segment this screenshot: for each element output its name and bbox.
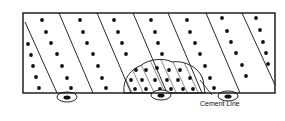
osteocyte-dot <box>191 87 195 91</box>
osteocyte-dot <box>69 86 73 90</box>
osteocyte-dot <box>78 18 82 22</box>
osteocyte-dot <box>167 68 171 72</box>
osteocyte-dot <box>193 41 197 45</box>
osteocyte-dot <box>178 68 182 72</box>
osteocyte-dot <box>181 87 185 91</box>
osteocyte-dot <box>100 76 104 80</box>
osteocyte-dot <box>169 87 173 91</box>
osteocyte-dot <box>240 63 244 67</box>
osteocyte-dot <box>134 68 138 72</box>
osteocyte-dot <box>55 52 59 56</box>
osteocyte-dot <box>261 40 265 44</box>
osteocyte-dot <box>91 52 95 56</box>
osteocyte-dot <box>120 41 124 45</box>
osteocyte-dot <box>229 40 233 44</box>
osteocyte-dot <box>144 68 148 72</box>
osteocyte-dot <box>44 30 48 34</box>
osteocyte-dot <box>31 64 35 68</box>
osteocyte-dot <box>258 28 262 32</box>
osteocyte-dot <box>160 52 164 56</box>
osteocyte-dot <box>140 78 144 82</box>
osteocyte-dot <box>155 66 159 70</box>
osteocyte-dot <box>112 18 116 22</box>
osteocyte-dot <box>153 30 157 34</box>
osteocyte-dot <box>49 41 53 45</box>
osteocyte-dot <box>65 76 69 80</box>
osteocyte-dot <box>40 18 44 22</box>
osteocyte-dot <box>37 86 41 90</box>
osteocyte-dot <box>104 86 108 90</box>
osteocyte-dot <box>85 41 89 45</box>
bone-remodeling-diagram <box>0 0 285 121</box>
osteocyte-dot <box>149 18 153 22</box>
osteocyte-dot <box>203 64 207 68</box>
osteocyte-dot <box>176 78 180 82</box>
osteocyte-dot <box>264 51 268 55</box>
osteocyte-dot <box>81 30 85 34</box>
osteoclast-blob <box>158 94 165 98</box>
osteocyte-dot <box>234 51 238 55</box>
osteocyte-dot <box>133 87 137 91</box>
lamella-line <box>242 13 275 85</box>
osteocyte-dot <box>225 29 229 33</box>
osteocyte-dot <box>266 62 270 66</box>
osteocyte-dot <box>244 74 248 78</box>
osteocyte-dot <box>124 52 128 56</box>
osteoclast-blob <box>225 95 232 99</box>
osteocyte-dot <box>34 75 38 79</box>
osteocyte-dot <box>208 76 212 80</box>
osteocyte-dot <box>60 64 64 68</box>
osteocyte-dot <box>254 16 258 20</box>
osteocyte-dot <box>198 52 202 56</box>
cement-line-label: Cement Line <box>200 100 240 107</box>
osteocyte-dot <box>188 30 192 34</box>
osteocyte-dot <box>212 86 216 90</box>
osteocyte-dot <box>153 78 157 82</box>
osteocyte-dot <box>116 30 120 34</box>
osteocyte-dot <box>96 64 100 68</box>
osteocyte-dot <box>188 76 192 80</box>
osteocyte-dot <box>185 18 189 22</box>
lamella-line <box>59 13 93 93</box>
osteocyte-dot <box>156 41 160 45</box>
osteocyte-dot <box>129 78 133 82</box>
osteocyte-dot <box>144 87 148 91</box>
osteoclast-blob <box>64 96 71 100</box>
osteocyte-dot <box>220 16 224 20</box>
osteocyte-dot <box>26 42 30 46</box>
osteocyte-dot <box>29 53 33 57</box>
osteocyte-dot <box>165 78 169 82</box>
lamella-line <box>25 22 57 93</box>
